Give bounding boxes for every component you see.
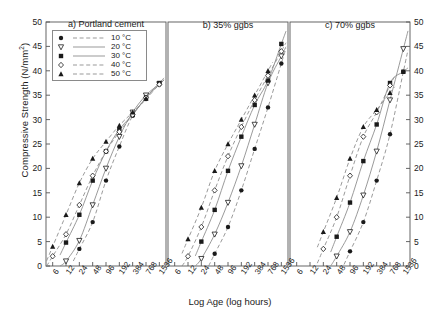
series-line (47, 80, 164, 266)
marker-filled-square (401, 70, 405, 74)
marker-open-diamond (361, 134, 366, 139)
marker-open-triangle-down (347, 230, 352, 235)
marker-filled-square (279, 42, 283, 46)
y-tick-label-right: 35 (414, 90, 436, 100)
series-line (73, 79, 164, 261)
marker-open-triangle-down (252, 122, 257, 127)
panel-title-c: c) 70% ggbs (290, 20, 410, 30)
series-line (47, 94, 151, 261)
marker-open-diamond (239, 124, 244, 129)
marker-filled-square (226, 169, 230, 173)
marker-filled-triangle-up (185, 236, 190, 241)
marker-filled-triangle-up (334, 195, 339, 200)
marker-filled-triangle-up (199, 205, 204, 210)
marker-open-diamond (50, 254, 55, 259)
panel-series-c (317, 31, 408, 266)
marker-open-triangle-down (361, 193, 366, 198)
marker-open-triangle-down (212, 232, 217, 237)
marker-filled-circle (266, 105, 270, 109)
marker-open-triangle-down (239, 164, 244, 169)
series-line (209, 48, 286, 266)
marker-open-diamond (226, 154, 231, 159)
marker-open-diamond (334, 215, 339, 220)
y-tick-label-right: 5 (414, 237, 436, 247)
y-tick-label-right: 50 (414, 17, 436, 27)
y-tick-label-right: 40 (414, 66, 436, 76)
marker-filled-circle (117, 144, 121, 148)
marker-open-triangle-down (77, 238, 82, 243)
y-tick-label: 50 (20, 17, 42, 27)
marker-filled-square (64, 240, 68, 244)
y-tick-label: 20 (20, 163, 42, 173)
marker-open-triangle-down (374, 149, 379, 154)
panel-series-a (47, 78, 164, 266)
y-tick-label-right: 20 (414, 163, 436, 173)
y-tick-label-right: 10 (414, 212, 436, 222)
y-tick-label: 45 (20, 41, 42, 51)
marker-open-triangle-down (225, 200, 230, 205)
marker-filled-square (90, 178, 94, 182)
series-line (195, 31, 286, 256)
marker-filled-triangle-up (265, 68, 270, 73)
chart-root: Compressive Strength (N/mm2) Log Age (lo… (0, 0, 440, 322)
series-line (195, 47, 286, 266)
marker-filled-square (199, 239, 203, 243)
legend-label: 40 °C (111, 60, 131, 69)
marker-open-triangle-down (401, 47, 406, 52)
marker-filled-circle (226, 225, 230, 229)
marker-open-diamond (186, 254, 191, 259)
marker-filled-triangle-up (58, 71, 63, 76)
marker-filled-triangle-up (103, 139, 108, 144)
legend-label: 10 °C (111, 33, 131, 42)
panel-title-b: b) 35% ggbs (168, 20, 288, 30)
y-tick-label: 25 (20, 139, 42, 149)
marker-filled-square (348, 200, 352, 204)
marker-open-diamond (212, 188, 217, 193)
marker-filled-square (374, 122, 378, 126)
y-tick-label-right: 15 (414, 188, 436, 198)
marker-filled-triangle-up (212, 168, 217, 173)
marker-filled-circle (252, 147, 256, 151)
legend-label: 50 °C (111, 69, 131, 78)
marker-filled-circle (90, 220, 94, 224)
y-tick-label: 35 (20, 90, 42, 100)
marker-filled-circle (388, 132, 392, 136)
series-line (60, 78, 164, 255)
marker-open-diamond (59, 62, 64, 67)
marker-open-triangle-down (387, 98, 392, 103)
series-line (331, 68, 408, 252)
marker-open-triangle-down (117, 134, 122, 139)
y-tick-label: 15 (20, 188, 42, 198)
marker-filled-triangle-up (252, 92, 257, 97)
legend: 10 °C20 °C30 °C40 °C50 °C (52, 30, 147, 81)
marker-filled-square (212, 208, 216, 212)
y-tick-label: 40 (20, 66, 42, 76)
marker-filled-triangle-up (77, 180, 82, 185)
marker-filled-square (59, 54, 63, 58)
marker-filled-circle (59, 36, 63, 40)
marker-filled-square (361, 159, 365, 163)
marker-filled-triangle-up (239, 117, 244, 122)
marker-open-diamond (90, 173, 95, 178)
y-tick-label: 5 (20, 237, 42, 247)
marker-filled-circle (239, 188, 243, 192)
marker-filled-square (77, 213, 81, 217)
marker-open-triangle-down (334, 254, 339, 259)
legend-label: 30 °C (111, 51, 131, 60)
y-tick-label: 30 (20, 115, 42, 125)
marker-open-triangle-down (103, 166, 108, 171)
marker-filled-circle (374, 178, 378, 182)
marker-filled-circle (361, 220, 365, 224)
series-line (317, 87, 394, 247)
marker-filled-square (334, 235, 338, 239)
marker-open-diamond (64, 232, 69, 237)
marker-open-triangle-down (58, 45, 63, 50)
y-tick-label-right: 25 (414, 139, 436, 149)
marker-filled-triangle-up (225, 141, 230, 146)
y-tick-label-right: 45 (414, 41, 436, 51)
marker-filled-triangle-up (117, 123, 122, 128)
marker-filled-circle (104, 178, 108, 182)
marker-filled-square (252, 103, 256, 107)
marker-filled-circle (212, 252, 216, 256)
marker-filled-circle (348, 249, 352, 253)
